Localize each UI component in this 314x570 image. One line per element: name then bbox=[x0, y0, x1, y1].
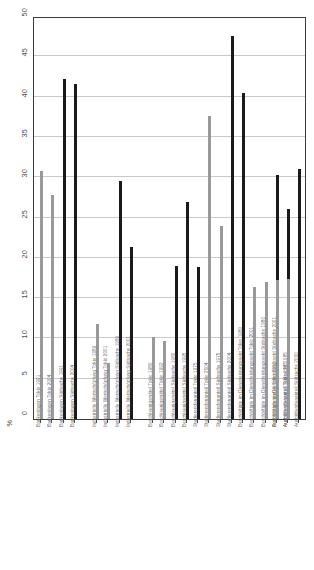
y-axis-tick-label: 5 bbox=[21, 371, 28, 375]
y-axis: 05101520253035404550 bbox=[0, 0, 33, 437]
x-axis: Bankenlagen Tokio 1991Bankenlagen Tokio … bbox=[33, 420, 306, 570]
x-axis-tick-label: Studierendenanteil Südsachs 1975 bbox=[217, 353, 222, 427]
gridline bbox=[34, 55, 305, 56]
y-axis-tick-label: 50 bbox=[21, 8, 28, 16]
x-axis-tick-label: Beschäftigte im Dienstleistungssekt Toki… bbox=[239, 327, 244, 427]
x-axis-tick-label: Studierendenanteil Südsachs 2004 bbox=[228, 353, 233, 427]
x-axis-tick-label: Beschäftigte im Dienstleistungssekt Süds… bbox=[262, 317, 267, 427]
x-axis-tick-label: Beschleunigsmittel Tokio 1980 bbox=[149, 362, 154, 427]
y-axis-unit-label: % bbox=[6, 420, 13, 427]
bar-chart: 05101520253035404550 % Bankenlagen Tokio… bbox=[0, 0, 314, 570]
x-axis-tick-label: Beschleunigsmittel Südsachs 1980 bbox=[172, 353, 177, 427]
y-axis-tick-label: 45 bbox=[21, 48, 28, 56]
x-axis-tick-label: Studierendenanteil Tokio 2004 bbox=[205, 362, 210, 427]
y-axis-tick-label: 35 bbox=[21, 129, 28, 137]
y-axis-tick-label: 10 bbox=[21, 330, 28, 338]
x-axis-tick-label: Bankenlagen Südsachs 1991 bbox=[60, 365, 65, 427]
x-axis-tick-label: Beschleunigsmittel Südsachs 1995 bbox=[183, 353, 188, 427]
x-axis-tick-label: Industrielle Wertschöpfung Tokio 2001 bbox=[104, 346, 109, 427]
x-axis-tick-label: Industrielle Wertschöpfung Tokio 1989 bbox=[93, 346, 98, 427]
x-axis-tick-label: Bankenlagen Tokio 1991 bbox=[37, 375, 42, 427]
x-axis-tick-label: Beschäftigte im Dienstleistungssekt Toki… bbox=[250, 327, 255, 427]
x-axis-tick-label: Ausbildendenanteil Tokio 2000 bbox=[273, 362, 278, 427]
y-axis-tick-label: 15 bbox=[21, 290, 28, 298]
y-axis-tick-label: 40 bbox=[21, 89, 28, 97]
x-axis-tick-label: Industrielle Wertschöpfung Südsachs 1989 bbox=[116, 336, 121, 427]
x-axis-tick-label: Ausbildendenanteil Südsachs 2000 bbox=[295, 352, 300, 427]
x-axis-tick-label: Bankenlagen Tokio 2004 bbox=[48, 375, 53, 427]
x-axis-tick-label: Beschleunigsmittel Tokio 1992 bbox=[160, 362, 165, 427]
y-axis-tick-label: 20 bbox=[21, 250, 28, 258]
y-axis-tick-label: 30 bbox=[21, 169, 28, 177]
x-axis-tick-label: Studierendenanteil Tokio 1975 bbox=[194, 362, 199, 427]
x-axis-tick-label: Ausbildendenanteil Südsachs 1985 bbox=[284, 352, 289, 427]
x-axis-tick-label: Industrielle Wertschöpfung Südsachs 2001 bbox=[127, 336, 132, 427]
x-axis-tick-label: Bankenlagen Südsachs 2004 bbox=[71, 365, 76, 427]
y-axis-tick-label: 25 bbox=[21, 210, 28, 218]
y-axis-tick-label: 0 bbox=[21, 411, 28, 415]
